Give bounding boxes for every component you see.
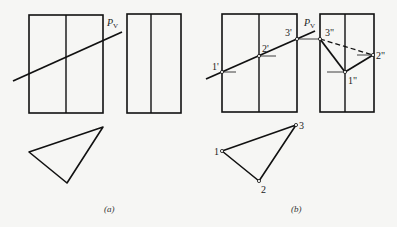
projection-diagram: PV (a) PV 1' 2' 3' 3" 1" 2" 1 bbox=[0, 0, 397, 227]
top-view-triangle-a bbox=[29, 127, 103, 183]
section-edge-3-1 bbox=[320, 39, 345, 72]
point-3 bbox=[294, 123, 297, 126]
point-3p bbox=[295, 37, 298, 40]
label-1p: 1' bbox=[212, 61, 219, 72]
label-3pp: 3" bbox=[325, 27, 334, 38]
top-view-triangle-b bbox=[222, 125, 296, 181]
point-1pp bbox=[343, 70, 346, 73]
label-1pp: 1" bbox=[348, 75, 357, 86]
trace-label-b: PV bbox=[303, 17, 315, 30]
point-2 bbox=[257, 179, 260, 182]
side-view-rect-a bbox=[127, 14, 181, 113]
point-2p bbox=[257, 54, 260, 57]
section-edge-3-2-hidden bbox=[320, 39, 373, 55]
caption-a: (a) bbox=[104, 204, 115, 214]
point-2pp bbox=[371, 53, 374, 56]
label-3p: 3' bbox=[285, 27, 292, 38]
trace-label-a: PV bbox=[106, 17, 118, 30]
section-edge-1-2 bbox=[345, 55, 373, 72]
caption-b: (b) bbox=[291, 204, 302, 214]
label-1: 1 bbox=[214, 146, 219, 157]
point-1p bbox=[220, 70, 223, 73]
label-2pp: 2" bbox=[376, 50, 385, 61]
panel-b bbox=[206, 14, 374, 181]
point-1 bbox=[220, 149, 223, 152]
point-3pp bbox=[318, 37, 321, 40]
label-2p: 2' bbox=[262, 43, 269, 54]
label-2: 2 bbox=[261, 184, 266, 195]
label-3: 3 bbox=[299, 120, 304, 131]
panel-a bbox=[13, 14, 181, 183]
